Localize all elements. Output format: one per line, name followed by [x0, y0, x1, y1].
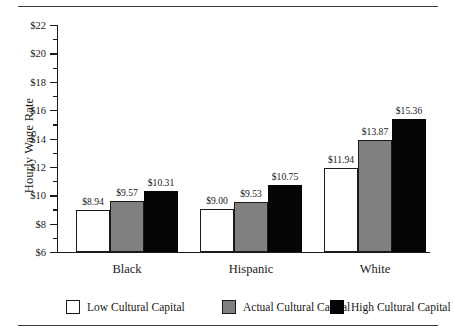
y-tick-major: [50, 252, 57, 253]
chart-legend: Low Cultural CapitalActual Cultural Capi…: [0, 300, 455, 320]
legend-swatch-high: [330, 300, 344, 314]
bottom-divider-rule: [18, 325, 438, 326]
legend-item-high: High Cultural Capital: [330, 300, 451, 314]
legend-label: Low Cultural Capital: [87, 301, 185, 313]
legend-item-low: Low Cultural Capital: [66, 300, 185, 314]
y-tick-label: $18: [30, 76, 46, 87]
y-tick-minor: [53, 124, 58, 125]
y-tick-minor: [53, 209, 58, 210]
y-tick-minor: [53, 153, 58, 154]
legend-swatch-actual: [222, 300, 236, 314]
bar-white-high: [392, 119, 426, 252]
y-tick-minor: [53, 96, 58, 97]
category-label-hispanic: Hispanic: [229, 262, 273, 277]
category-label-black: Black: [112, 262, 141, 277]
y-tick-label: $10: [30, 190, 46, 201]
top-divider-rule: [18, 6, 438, 7]
y-tick-label: $6: [36, 247, 47, 258]
bar-hispanic-actual: [234, 202, 268, 252]
bar-value-label: $9.00: [206, 195, 228, 206]
y-tick-major: [50, 139, 57, 140]
y-tick-major: [50, 224, 57, 225]
plot-area: $6$8$10$12$14$16$18$20$22 $8.94$9.57$10.…: [57, 25, 430, 252]
y-tick-major: [50, 167, 57, 168]
bar-value-label: $9.53: [240, 188, 262, 199]
y-tick-major: [50, 110, 57, 111]
bar-value-label: $15.36: [396, 105, 422, 116]
y-tick-major: [50, 195, 57, 196]
bar-white-actual: [358, 140, 392, 252]
y-tick-label: $12: [30, 161, 46, 172]
y-tick-label: $8: [36, 218, 47, 229]
bar-value-label: $8.94: [82, 196, 104, 207]
y-tick-label: $16: [30, 105, 46, 116]
bar-black-low: [76, 210, 110, 252]
y-tick-minor: [53, 39, 58, 40]
chart-figure: Hourly Wage Rate $6$8$10$12$14$16$18$20$…: [0, 0, 455, 336]
category-label-white: White: [360, 262, 391, 277]
bar-white-low: [324, 168, 358, 252]
bar-value-label: $11.94: [328, 154, 354, 165]
y-tick-label: $22: [30, 20, 46, 31]
bar-value-label: $13.87: [362, 126, 388, 137]
y-tick-minor: [53, 238, 58, 239]
y-tick-label: $14: [30, 133, 46, 144]
bar-black-high: [144, 191, 178, 252]
bar-hispanic-low: [200, 209, 234, 252]
legend-label: High Cultural Capital: [351, 301, 451, 313]
bar-value-label: $9.57: [116, 187, 138, 198]
y-tick-major: [50, 53, 57, 54]
bar-value-label: $10.75: [272, 171, 298, 182]
legend-swatch-low: [66, 300, 80, 314]
bar-hispanic-high: [268, 185, 302, 252]
y-tick-major: [50, 25, 57, 26]
y-tick-minor: [53, 181, 58, 182]
bar-black-actual: [110, 201, 144, 252]
y-tick-minor: [53, 68, 58, 69]
y-tick-major: [50, 82, 57, 83]
y-tick-label: $20: [30, 48, 46, 59]
bar-value-label: $10.31: [148, 177, 174, 188]
